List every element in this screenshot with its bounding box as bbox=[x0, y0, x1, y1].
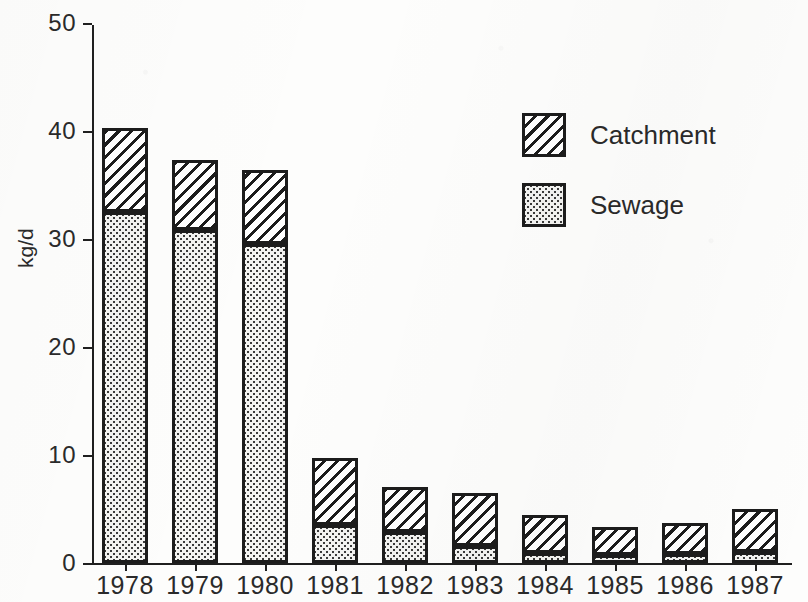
bar-group[interactable] bbox=[732, 509, 778, 563]
bar-segment-sewage[interactable] bbox=[522, 553, 568, 563]
bar-segment-sewage[interactable] bbox=[242, 244, 288, 563]
x-axis-label: 1987 bbox=[720, 571, 790, 600]
y-axis-tick-label: 40 bbox=[48, 117, 76, 145]
y-axis-tick-label: 30 bbox=[48, 225, 76, 253]
legend-label-catchment: Catchment bbox=[590, 120, 716, 151]
bar-chart-figure: 01020304050 1978197919801981198219831984… bbox=[0, 0, 808, 602]
bar-group[interactable] bbox=[172, 160, 218, 563]
bar-group[interactable] bbox=[452, 493, 498, 563]
y-axis-tick: 20 bbox=[83, 347, 92, 349]
bar-segment-catchment[interactable] bbox=[172, 160, 218, 230]
x-axis-label: 1986 bbox=[650, 571, 720, 600]
bar-group[interactable] bbox=[592, 527, 638, 563]
bar-segment-catchment[interactable] bbox=[382, 487, 428, 531]
bar-group[interactable] bbox=[382, 487, 428, 563]
y-axis-title: kg/d bbox=[14, 228, 38, 268]
y-axis-tick-label: 10 bbox=[48, 441, 76, 469]
bar-group[interactable] bbox=[102, 128, 148, 563]
bar-segment-sewage[interactable] bbox=[102, 212, 148, 563]
y-axis-tick-label: 0 bbox=[62, 549, 76, 577]
bar-segment-catchment[interactable] bbox=[662, 523, 708, 554]
x-axis-label: 1984 bbox=[510, 571, 580, 600]
bar-segment-catchment[interactable] bbox=[102, 128, 148, 212]
bar-segment-catchment[interactable] bbox=[242, 170, 288, 245]
y-axis-line bbox=[92, 25, 94, 565]
x-axis-line bbox=[92, 563, 792, 565]
x-axis-label: 1978 bbox=[90, 571, 160, 600]
bar-segment-catchment[interactable] bbox=[452, 493, 498, 546]
bar-segment-sewage[interactable] bbox=[312, 525, 358, 563]
bar-segment-sewage[interactable] bbox=[732, 552, 778, 563]
bar-segment-catchment[interactable] bbox=[522, 515, 568, 553]
bar-group[interactable] bbox=[522, 515, 568, 563]
x-axis-label: 1979 bbox=[160, 571, 230, 600]
y-axis-tick: 40 bbox=[83, 131, 92, 133]
y-axis-tick: 10 bbox=[83, 455, 92, 457]
legend-label-sewage: Sewage bbox=[590, 190, 684, 221]
y-axis-tick: 0 bbox=[83, 563, 92, 565]
x-axis-label: 1981 bbox=[300, 571, 370, 600]
x-axis-label: 1983 bbox=[440, 571, 510, 600]
legend-swatch-sewage-icon bbox=[522, 183, 566, 227]
chart-legend: Catchment Sewage bbox=[522, 113, 716, 253]
y-axis-tick: 30 bbox=[83, 239, 92, 241]
x-axis-label: 1980 bbox=[230, 571, 300, 600]
bar-segment-catchment[interactable] bbox=[732, 509, 778, 552]
y-axis-tick: 50 bbox=[83, 23, 92, 25]
bar-segment-sewage[interactable] bbox=[382, 532, 428, 563]
bar-segment-sewage[interactable] bbox=[592, 555, 638, 563]
bar-segment-sewage[interactable] bbox=[452, 546, 498, 563]
y-axis-tick-label: 20 bbox=[48, 333, 76, 361]
x-axis-label: 1982 bbox=[370, 571, 440, 600]
bar-segment-sewage[interactable] bbox=[172, 230, 218, 563]
bar-segment-catchment[interactable] bbox=[312, 458, 358, 525]
bar-segment-catchment[interactable] bbox=[592, 527, 638, 555]
plot-area: 01020304050 1978197919801981198219831984… bbox=[92, 25, 792, 565]
legend-item-sewage[interactable]: Sewage bbox=[522, 183, 716, 227]
bar-group[interactable] bbox=[312, 458, 358, 563]
bar-group[interactable] bbox=[242, 170, 288, 563]
bar-group[interactable] bbox=[662, 523, 708, 563]
legend-swatch-catchment-icon bbox=[522, 113, 566, 157]
legend-item-catchment[interactable]: Catchment bbox=[522, 113, 716, 157]
x-axis-label: 1985 bbox=[580, 571, 650, 600]
y-axis-tick-label: 50 bbox=[48, 9, 76, 37]
bar-segment-sewage[interactable] bbox=[662, 554, 708, 563]
